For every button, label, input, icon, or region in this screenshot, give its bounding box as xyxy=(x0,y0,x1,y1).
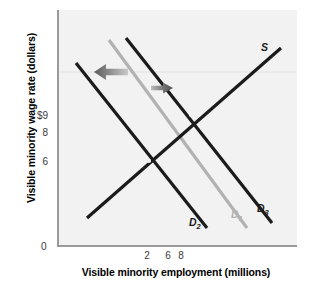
demand-curve-d1 xyxy=(109,40,247,228)
supply-demand-chart: Visible minority wage rate (dollars) $9 … xyxy=(0,0,321,291)
plot-area: S D2 D1 D3 xyxy=(57,10,297,247)
curve-label-s-text: S xyxy=(261,41,268,53)
equilibrium-dot-d2-s xyxy=(147,159,151,163)
equilibrium-dot-d1-s xyxy=(167,130,171,134)
y-tick-label-6: 6 xyxy=(8,156,48,167)
equilibrium-dot-d3-s xyxy=(189,113,193,117)
demand-curve-d3 xyxy=(126,38,272,223)
curve-label-d3: D3 xyxy=(257,202,269,217)
curve-label-d3-main: D xyxy=(257,202,265,214)
curve-label-d1-sub: 1 xyxy=(239,214,243,223)
x-tick-label-8: 8 xyxy=(169,250,193,261)
plot-canvas: S D2 D1 D3 xyxy=(59,10,297,245)
curve-label-d1-main: D xyxy=(231,208,239,220)
y-tick-label-9: $9 xyxy=(8,110,48,121)
y-tick-label-8: 8 xyxy=(8,127,48,138)
curve-label-d1: D1 xyxy=(231,208,243,223)
curve-label-d2-main: D xyxy=(189,216,197,228)
x-axis-title: Visible minority employment (millions) xyxy=(46,266,306,278)
leftward-shift-arrow xyxy=(94,64,128,80)
curve-label-d3-sub: 3 xyxy=(265,208,269,217)
curve-label-s: S xyxy=(261,41,268,53)
curve-label-d2-sub: 2 xyxy=(197,222,201,231)
curve-label-d2: D2 xyxy=(189,216,201,231)
origin-label: 0 xyxy=(41,241,47,252)
